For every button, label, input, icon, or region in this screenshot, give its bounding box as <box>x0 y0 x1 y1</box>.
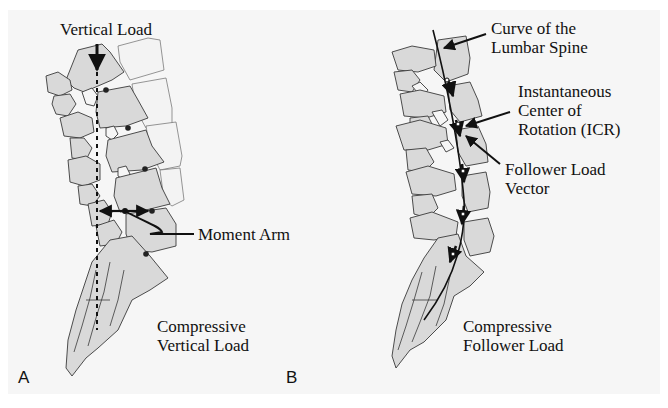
follower-load-vector-label: Follower Load Vector <box>505 160 606 198</box>
icr-marker <box>103 87 109 93</box>
vertebra-b-l4 <box>462 172 490 212</box>
label-line: Compressive <box>157 317 249 336</box>
label-line: Vertical Load <box>157 336 249 355</box>
label-line: Curve of the <box>491 19 588 38</box>
label-line: Follower Load <box>505 160 606 179</box>
sacrum <box>66 236 168 376</box>
panel-a-letter: A <box>18 368 29 388</box>
vertebra-b-l3 <box>456 126 488 166</box>
panel-b-letter: B <box>286 368 297 388</box>
compressive-vertical-load-label: Compressive Vertical Load <box>157 317 249 355</box>
label-line: Vector <box>505 179 606 198</box>
label-line: Follower Load <box>463 336 564 355</box>
vertebra-b-l5 <box>464 218 494 256</box>
icr-marker <box>149 208 155 214</box>
label-line: Lumbar Spine <box>491 38 588 57</box>
spine-diagram <box>0 0 668 408</box>
vertebra-b-l2 <box>448 82 482 122</box>
icr-marker <box>142 166 148 172</box>
label-line: Center of <box>518 101 620 120</box>
label-line: Rotation (ICR) <box>518 120 620 139</box>
vertical-load-label: Vertical Load <box>60 20 152 39</box>
curve-lumbar-spine-label: Curve of the Lumbar Spine <box>491 19 588 57</box>
icr-label: Instantaneous Center of Rotation (ICR) <box>518 82 620 139</box>
label-line: Compressive <box>463 317 564 336</box>
compressive-follower-load-label: Compressive Follower Load <box>463 317 564 355</box>
moment-arm-label: Moment Arm <box>198 225 290 244</box>
vertebra-l1 <box>66 44 124 92</box>
label-line: Instantaneous <box>518 82 620 101</box>
icr-marker <box>143 251 149 257</box>
icr-marker <box>125 125 131 131</box>
